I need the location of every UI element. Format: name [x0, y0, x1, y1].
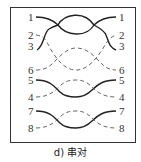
left-label-4: 4 — [28, 91, 34, 103]
left-label-7: 7 — [28, 105, 34, 117]
right-label-5: 5 — [119, 74, 125, 86]
right-label-4: 4 — [119, 91, 125, 103]
wire-2 — [36, 35, 116, 70]
left-label-3: 3 — [28, 40, 34, 52]
left-label-1: 1 — [28, 11, 34, 23]
right-label-7: 7 — [119, 105, 125, 117]
figure-caption: d) 串对 — [0, 144, 141, 159]
wire-7 — [36, 111, 116, 128]
wire-5 — [36, 80, 116, 97]
wiring-diagram: 1 2 3 6 5 4 7 8 1 2 3 6 5 4 7 8 — [0, 0, 141, 162]
wire-1 — [36, 15, 116, 25]
right-label-8: 8 — [119, 122, 125, 134]
left-label-5: 5 — [28, 74, 34, 86]
right-label-3: 3 — [119, 40, 125, 52]
left-label-8: 8 — [28, 122, 34, 134]
wire-6 — [36, 48, 116, 70]
right-label-1: 1 — [119, 11, 125, 23]
